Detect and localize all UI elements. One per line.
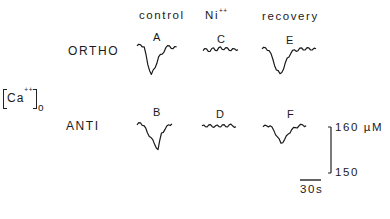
trace-f bbox=[263, 124, 306, 143]
trace-plot-area bbox=[0, 0, 390, 219]
trace-layer bbox=[137, 44, 316, 149]
trace-d bbox=[202, 124, 236, 127]
scale-label-160uM: 160 µM bbox=[335, 122, 383, 134]
scale-label-150: 150 bbox=[335, 167, 359, 179]
trace-a bbox=[137, 44, 177, 74]
time-scale-label: 30s bbox=[300, 184, 323, 196]
trace-e bbox=[262, 47, 316, 73]
trace-c bbox=[203, 47, 238, 52]
trace-b bbox=[137, 123, 172, 150]
calcium-trace-figure: control Ni++ recovery ORTHO ANTI Ca++o A… bbox=[0, 0, 390, 219]
